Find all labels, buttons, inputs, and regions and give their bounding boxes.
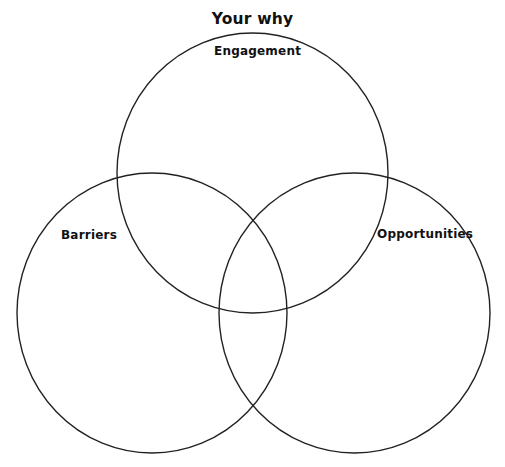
diagram-title: Your why (0, 12, 505, 28)
label-engagement: Engagement (214, 45, 301, 57)
label-barriers: Barriers (61, 229, 117, 241)
diagram-title-text: Your why (212, 12, 294, 28)
venn-diagram: Your why Engagement Barriers Opportuniti… (0, 0, 505, 467)
label-opportunities: Opportunities (377, 228, 473, 240)
